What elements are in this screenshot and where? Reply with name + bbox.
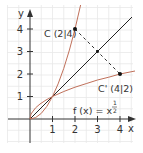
y-tick-2: 2: [17, 69, 23, 80]
function-label: f (x) = x: [73, 105, 112, 116]
x-tick-4: 4: [117, 124, 123, 135]
y-tick-1: 1: [17, 91, 23, 102]
exponent-numerator: 1: [113, 99, 117, 106]
x-tick-1: 1: [49, 124, 55, 135]
point-c-prime-label: C' (4|2): [98, 83, 133, 94]
x-axis-label: x: [128, 123, 134, 134]
y-tick-3: 3: [17, 46, 23, 57]
x-tick-2: 2: [72, 124, 78, 135]
x-axis-arrow-icon: [128, 116, 136, 122]
point-c-prime: [118, 72, 122, 76]
grid: [7, 5, 133, 143]
point-midpoint: [96, 50, 99, 53]
function-graph: 1 2 3 4 x 1 2 3 4 y C (2|4) C' (4|2) f (…: [0, 0, 143, 153]
exponent-denominator: 2: [113, 107, 117, 114]
y-axis-label: y: [18, 8, 24, 19]
y-axis-arrow-icon: [27, 9, 33, 17]
x-tick-3: 3: [94, 124, 100, 135]
point-c-label: C (2|4): [44, 28, 76, 39]
square-curve: [30, 5, 81, 119]
y-tick-4: 4: [17, 24, 23, 35]
